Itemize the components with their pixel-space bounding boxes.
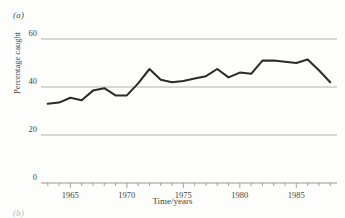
- gridlines: [41, 39, 337, 183]
- svg-text:20: 20: [29, 124, 38, 134]
- x-axis-label: Time/years: [0, 196, 345, 206]
- figure-panel-a: (a) Percentage caught 0204060 1965197019…: [0, 0, 345, 218]
- y-tick-labels: 0204060: [29, 28, 38, 182]
- svg-text:40: 40: [29, 76, 38, 86]
- line-chart: 0204060 19651970197519801985: [0, 0, 345, 218]
- svg-text:0: 0: [33, 172, 37, 182]
- panel-label-next: (b): [13, 208, 24, 218]
- x-tick-marks: [48, 183, 330, 188]
- svg-text:60: 60: [29, 28, 38, 38]
- data-series-line: [48, 59, 330, 103]
